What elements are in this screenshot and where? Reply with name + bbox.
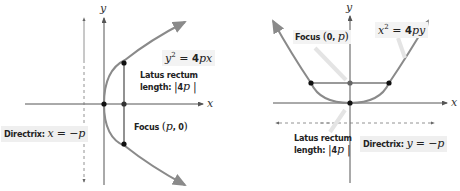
right-latus-left-point: [308, 80, 313, 85]
left-focus-label: Focus (p, 0): [134, 121, 188, 133]
left-parabola-diagram: [25, 18, 203, 185]
left-directrix-label: Directrix: x = −p: [1, 126, 88, 142]
right-equation-label: x2 = 4py: [375, 22, 428, 38]
right-x-axis-label: x: [451, 96, 457, 109]
right-vertex-point: [347, 100, 352, 105]
right-focus-label: Focus (0, p): [293, 30, 351, 44]
left-parabola-curve-lower: [104, 104, 185, 185]
right-focus-point: [347, 80, 352, 85]
left-focus-point: [121, 101, 126, 106]
left-equation-label: y2 = 4px: [162, 50, 215, 66]
left-y-axis-label: y: [100, 2, 106, 15]
left-latus-bottom-point: [121, 141, 126, 146]
left-x-axis-label: x: [207, 97, 213, 110]
right-directrix-label: Directrix: y = −p: [360, 136, 447, 152]
left-latus-rectum-label: Latus rectum length: |4p |: [140, 70, 198, 93]
left-latus-top-point: [121, 60, 126, 65]
right-latus-rectum-label: Latus rectum length: |4p |: [294, 133, 352, 156]
left-vertex-point: [101, 101, 106, 106]
right-y-axis-label: y: [346, 1, 352, 14]
right-latus-right-point: [386, 80, 391, 85]
